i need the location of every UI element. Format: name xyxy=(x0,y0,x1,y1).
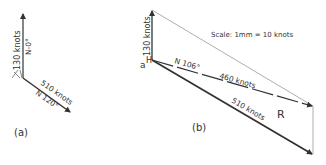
caption-b: (b) xyxy=(192,122,206,133)
wind-vector-magnitude: 130 knots xyxy=(143,16,152,56)
vector-diagram: 130 knots N-0° 510 knots N 120° (a) 130 … xyxy=(0,0,326,165)
diagram-a: 130 knots N-0° 510 knots N 120° (a) xyxy=(12,14,75,138)
caption-a: (a) xyxy=(14,127,28,138)
resultant-label: R xyxy=(277,108,285,121)
resultant-magnitude: 460 knots xyxy=(218,71,256,90)
north-vector-bearing: N-0° xyxy=(24,38,33,55)
scale-text: Scale: 1mm = 10 knots xyxy=(211,31,293,39)
origin-label-h: H xyxy=(146,56,152,65)
angle-mark-icon xyxy=(12,70,22,78)
north-vector-magnitude: 130 knots xyxy=(13,30,22,70)
origin-label-a: a xyxy=(140,60,146,70)
diagram-b: 130 knots a H Scale: 1mm = 10 knots N 10… xyxy=(140,10,313,154)
